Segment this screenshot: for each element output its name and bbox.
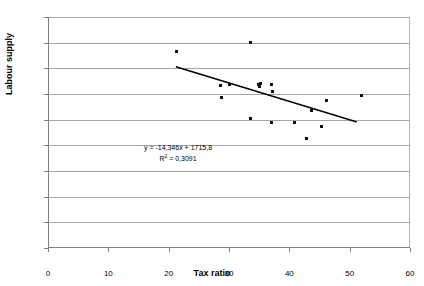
x-tick [48, 248, 49, 252]
x-tick-label: 30 [217, 270, 241, 278]
data-point [259, 82, 262, 85]
data-point [249, 41, 252, 44]
x-tick [108, 248, 109, 252]
gridline [48, 43, 410, 44]
x-tick [350, 248, 351, 252]
gridline [48, 120, 410, 121]
data-point [228, 83, 231, 86]
data-point [325, 99, 328, 102]
gridline [48, 197, 410, 198]
y-axis-title: Labour supply [4, 33, 14, 95]
gridline [48, 222, 410, 223]
y-axis-line [48, 17, 49, 248]
x-tick [169, 248, 170, 252]
scatter-chart: Labour supply Tax ratio 0200400600800100… [0, 0, 424, 286]
x-tick-label: 50 [338, 270, 362, 278]
data-point [360, 94, 363, 97]
r-squared-value: = 0,3091 [167, 155, 196, 162]
gridline [48, 17, 410, 18]
data-point [175, 50, 178, 53]
x-tick-label: 40 [277, 270, 301, 278]
data-point [310, 109, 313, 112]
plot-background [48, 17, 410, 248]
gridline [48, 171, 410, 172]
x-tick-label: 20 [157, 270, 181, 278]
data-point [271, 90, 274, 93]
data-point [220, 96, 223, 99]
x-tick [410, 248, 411, 252]
x-tick-label: 0 [36, 270, 60, 278]
data-point [249, 117, 252, 120]
data-point [258, 85, 261, 88]
data-point [219, 84, 222, 87]
data-point [293, 121, 296, 124]
r-squared-line: R2 = 0,3091 [112, 152, 244, 163]
x-tick-label: 60 [398, 270, 422, 278]
x-tick [289, 248, 290, 252]
gridline [48, 68, 410, 69]
plot-area: 020040060080010001200140016001800 010203… [48, 17, 410, 248]
plot-right-border [409, 17, 410, 248]
regression-annotation: y = -14,346x + 1715,8 R2 = 0,3091 [112, 143, 244, 163]
data-point [305, 137, 308, 140]
regression-equation: y = -14,346x + 1715,8 [112, 143, 244, 152]
data-point [320, 125, 323, 128]
x-tick-label: 10 [96, 270, 120, 278]
gridline [48, 94, 410, 95]
x-axis-line [48, 247, 410, 248]
data-point [270, 121, 273, 124]
data-point [270, 83, 273, 86]
x-tick [229, 248, 230, 252]
